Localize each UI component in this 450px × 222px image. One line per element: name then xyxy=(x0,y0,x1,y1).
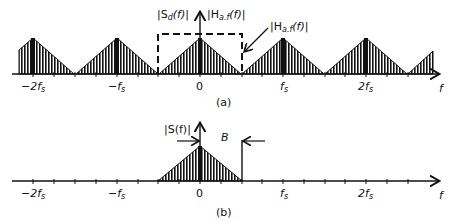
tick-label-minus2fs-b: −2fs xyxy=(21,187,45,201)
replica-spectra xyxy=(19,38,433,74)
tick-label-2fs-b: 2fs xyxy=(358,187,373,201)
tick-label-minus2fs-a: −2fs xyxy=(21,80,45,94)
tick-label-zero-a: 0 xyxy=(196,80,203,93)
label-haf-top: |Ha.f(f)| xyxy=(207,8,245,22)
tick-label-zero-b: 0 xyxy=(196,187,203,200)
label-haf-arrow: |Ha.f(f)| xyxy=(270,20,308,34)
spectrum-replica-minus2fs xyxy=(19,38,74,74)
caption-a: (a) xyxy=(216,96,231,109)
panel-a: |Sd(f)| |Ha.f(f)| |Ha.f(f)| −2fs −fs 0 f… xyxy=(12,8,445,109)
label-s: |S(f)| xyxy=(164,123,191,136)
filter-pointer-arrow xyxy=(245,28,268,51)
spectrum-replica-3fs-partial xyxy=(408,51,433,74)
tick-label-fs-a: fs xyxy=(280,80,288,94)
tick-label-minusfs-a: −fs xyxy=(108,80,125,94)
tick-label-2fs-a: 2fs xyxy=(358,80,373,94)
panel-b: |S(f)| B −2fs −fs 0 fs 2fs f (b) xyxy=(12,123,445,219)
caption-b: (b) xyxy=(216,206,232,219)
axis-label-f-a: f xyxy=(439,82,445,95)
label-sd: |Sd(f)| xyxy=(157,8,189,22)
label-bandwidth: B xyxy=(221,131,229,144)
tick-label-fs-b: fs xyxy=(280,187,288,201)
sampling-spectrum-diagram: |Sd(f)| |Ha.f(f)| |Ha.f(f)| −2fs −fs 0 f… xyxy=(0,0,450,222)
axis-label-f-b: f xyxy=(439,189,445,202)
tick-label-minusfs-b: −fs xyxy=(108,187,125,201)
